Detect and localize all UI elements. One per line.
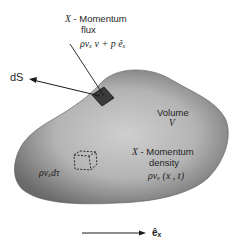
density-title-text: - Momentum — [138, 146, 194, 157]
flux-title-text: - Momentum — [71, 13, 127, 24]
x-unit-vector-label: êₓ — [152, 227, 161, 238]
x-axis-arrowhead — [139, 231, 146, 236]
normal-vector-arrow — [33, 80, 100, 96]
flux-formula: ρvₓ v + p êₓ — [80, 38, 126, 49]
diagram-canvas — [0, 0, 234, 243]
flux-pointer-line — [70, 44, 104, 96]
volume-element-label: ρvₓdτ — [39, 167, 60, 178]
surface-element-label: dS — [10, 72, 23, 83]
control-volume-blob — [15, 70, 229, 204]
volume-symbol: V — [169, 118, 175, 129]
density-formula: ρvₓ (x , t) — [148, 170, 184, 181]
volume-title: Volume — [157, 107, 189, 118]
flux-subtitle: flux — [81, 24, 96, 35]
normal-vector-arrowhead — [29, 77, 37, 83]
density-subtitle: density — [149, 157, 179, 168]
